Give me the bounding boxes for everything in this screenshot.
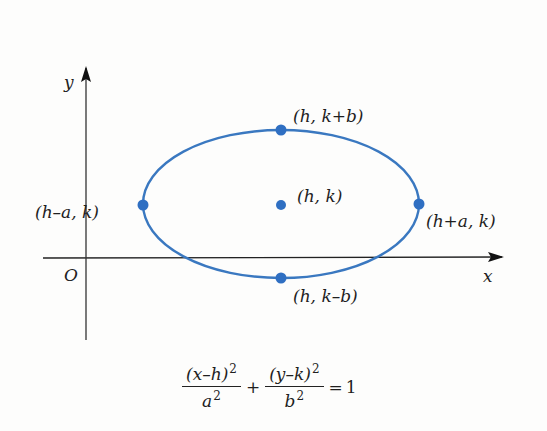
- x-axis-label: x: [483, 266, 493, 286]
- equals-sign: =: [329, 377, 343, 397]
- x-axis: [43, 257, 502, 258]
- term2-denominator: b: [285, 391, 296, 411]
- term1-numerator-exponent: 2: [229, 362, 237, 376]
- plus-operator: +: [246, 377, 260, 397]
- term2-numerator: (y–k): [269, 364, 311, 384]
- right-vertex-label: (h+a, k): [426, 211, 496, 231]
- left-vertex-label: (h–a, k): [35, 202, 99, 222]
- term2-denominator-exponent: 2: [296, 389, 304, 403]
- bottom-vertex-label: (h, k–b): [293, 286, 358, 306]
- term1-denominator: a: [202, 391, 212, 411]
- equation-rhs: 1: [346, 377, 357, 397]
- bottom-vertex-point: [276, 273, 287, 284]
- right-vertex-point: [414, 199, 425, 210]
- ellipse-equation: (x–h)2 a2 + (y–k)2 b2 = 1: [180, 362, 357, 411]
- left-vertex-point: [138, 200, 149, 211]
- center-point: [276, 200, 286, 210]
- equation-term-y: (y–k)2 b2: [265, 362, 323, 411]
- equation-term-x: (x–h)2 a2: [182, 362, 241, 411]
- term1-denominator-exponent: 2: [213, 389, 221, 403]
- center-label: (h, k): [297, 186, 342, 206]
- term2-numerator-exponent: 2: [312, 362, 320, 376]
- y-axis-label: y: [63, 72, 74, 92]
- origin-label: O: [64, 265, 78, 285]
- top-vertex-label: (h, k+b): [293, 106, 363, 126]
- top-vertex-point: [276, 125, 287, 136]
- term1-numerator: (x–h): [186, 364, 228, 384]
